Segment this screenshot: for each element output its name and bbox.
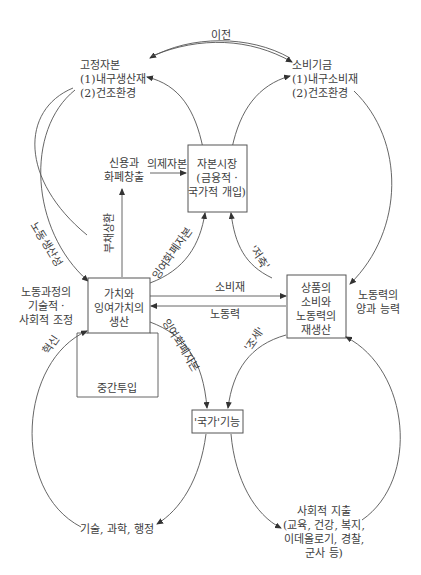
arc-state-to-social xyxy=(231,434,281,528)
svg-text:(1)내구생산재: (1)내구생산재 xyxy=(80,73,146,86)
node-intermediate-inputs: 중간투입 xyxy=(77,333,158,397)
arc-tech-to-production xyxy=(32,331,87,527)
svg-text:군사 등): 군사 등) xyxy=(305,547,343,560)
svg-text:'국가'기능: '국가'기능 xyxy=(194,416,240,429)
svg-text:양과 능력: 양과 능력 xyxy=(356,303,400,316)
node-value-production: 가치와 잉여가치의 생산 xyxy=(88,278,150,333)
node-consumption-fund: 소비기금 (1)내구소비재 (2)건조환경 xyxy=(292,59,358,100)
edge-label-debt-repayment: 부채상환 xyxy=(103,213,116,253)
svg-text:기술적 ·: 기술적 · xyxy=(28,300,65,313)
svg-text:사회적 조정: 사회적 조정 xyxy=(19,314,73,327)
svg-text:(2)건조환경: (2)건조환경 xyxy=(292,87,348,100)
svg-text:가치와: 가치와 xyxy=(104,288,134,301)
edge-label-labor-power: 노동력 xyxy=(210,308,240,321)
edge-label-consumer-goods: 소비재 xyxy=(215,281,245,294)
arc-market-to-consumption xyxy=(232,76,290,148)
svg-text:노동력의: 노동력의 xyxy=(358,289,398,302)
node-social-expenditure: 사회적 지출 (교육, 건강, 복지, 이데올로기, 경찰, 군사 등) xyxy=(283,505,365,560)
arc-labor-productivity xyxy=(35,88,87,235)
arc-state-to-tech xyxy=(157,434,206,524)
svg-text:(1)내구소비재: (1)내구소비재 xyxy=(292,73,358,86)
edge-label-fictitious-capital: 의제자본 xyxy=(147,158,187,171)
node-tech-science-admin: 기술, 과학, 행정 xyxy=(80,523,154,536)
svg-text:자본시장: 자본시장 xyxy=(197,158,237,171)
arc-social-to-reproduction xyxy=(346,337,400,520)
capital-circulation-diagram: 이전 고정자본 (1)내구생산재 (2)건조환경 소비기금 (1)내구소비재 (… xyxy=(0,0,421,575)
svg-text:(교육, 건강, 복지,: (교육, 건강, 복지, xyxy=(283,519,365,532)
svg-text:사회적 지출: 사회적 지출 xyxy=(297,505,351,518)
svg-text:재생산: 재생산 xyxy=(301,324,331,337)
svg-text:중간투입: 중간투입 xyxy=(97,382,137,395)
svg-text:이데올로기, 경찰,: 이데올로기, 경찰, xyxy=(284,533,365,546)
edge-label-transfer: 이전 xyxy=(211,29,231,42)
svg-text:소비와: 소비와 xyxy=(301,296,331,309)
svg-text:고정자본: 고정자본 xyxy=(80,59,120,72)
edge-label-surplus-up: 잉여화폐자본 xyxy=(150,225,195,282)
svg-text:화폐창출: 화폐창출 xyxy=(104,171,144,184)
node-capital-market: 자본시장 (금융적 · 국가적 개입) xyxy=(188,145,247,212)
arc-market-to-fixed xyxy=(147,77,203,148)
transfer-arc xyxy=(150,41,292,62)
node-labor-process: 노동과정의 기술적 · 사회적 조정 xyxy=(19,286,73,327)
edge-label-surplus-down: 잉여화폐자본 xyxy=(159,317,202,375)
edge-label-taxes: '조세' xyxy=(242,325,268,354)
svg-text:노동력의: 노동력의 xyxy=(296,310,336,323)
node-labor-quantity: 노동력의 양과 능력 xyxy=(356,289,400,316)
svg-text:생산: 생산 xyxy=(109,316,129,329)
svg-text:잉여가치의: 잉여가치의 xyxy=(94,302,144,315)
svg-text:(2)건조환경: (2)건조환경 xyxy=(80,87,136,100)
node-fixed-capital: 고정자본 (1)내구생산재 (2)건조환경 xyxy=(80,59,146,100)
svg-text:신용과: 신용과 xyxy=(109,157,139,170)
svg-text:소비기금: 소비기금 xyxy=(292,59,332,72)
edge-label-savings: '저축' xyxy=(247,243,273,272)
node-state-function: '국가'기능 xyxy=(192,410,243,433)
node-commodity-consumption: 상품의 소비와 노동력의 재생산 xyxy=(287,275,346,338)
node-credit-money: 신용과 화폐창출 xyxy=(104,157,144,184)
arc-consumption-to-reproduction xyxy=(350,91,392,284)
svg-text:국가적 개입): 국가적 개입) xyxy=(188,186,246,199)
svg-text:노동과정의: 노동과정의 xyxy=(21,286,71,299)
svg-text:상품의: 상품의 xyxy=(301,282,331,295)
svg-text:(금융적 ·: (금융적 · xyxy=(196,172,237,185)
